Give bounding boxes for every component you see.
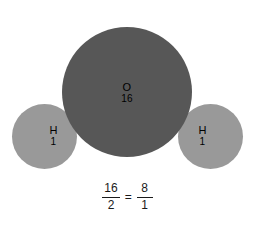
water-molecule-illustration: H 1 H 1 O 16 [0,0,255,175]
fraction-left-denominator: 2 [106,199,117,213]
atom-hydrogen-right-label: H 1 [198,125,206,147]
fraction-right-numerator: 8 [139,182,150,196]
atom-hydrogen-left-mass: 1 [51,137,57,148]
atom-oxygen-symbol: O [123,82,132,94]
atom-hydrogen-right-mass: 1 [200,137,206,148]
atom-hydrogen-right-symbol: H [198,125,206,137]
fraction-left: 16 2 [102,182,119,213]
atom-oxygen: O 16 [62,27,192,157]
atom-oxygen-label: O 16 [121,82,133,104]
equals-sign: = [125,191,132,203]
fraction-right: 8 1 [137,182,153,213]
fraction-left-numerator: 16 [102,182,119,196]
molecule-diagram: H 1 H 1 O 16 16 2 = 8 1 [0,0,255,232]
atom-oxygen-mass: 16 [121,94,133,105]
mass-ratio-equation: 16 2 = 8 1 [0,182,255,213]
fraction-right-denominator: 1 [139,199,150,213]
atom-hydrogen-left-symbol: H [49,125,57,137]
atom-hydrogen-left-label: H 1 [49,125,57,147]
